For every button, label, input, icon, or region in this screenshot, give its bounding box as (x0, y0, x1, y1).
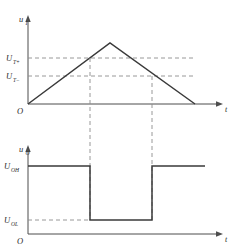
top-plot-x-axis-arrow (216, 101, 223, 106)
waveform-figure: u I t O U T+ U T− (0, 0, 234, 250)
level-low-label: U (4, 215, 11, 225)
crossing-markers-group (90, 58, 152, 220)
threshold-low-label: U (6, 71, 13, 81)
bottom-plot-y-axis-label: u (19, 144, 23, 154)
top-plot-y-axis-label: u (19, 14, 23, 24)
input-triangle-waveform (28, 43, 195, 104)
bottom-plot-x-axis-label: t (225, 235, 228, 244)
bottom-plot-x-axis-arrow (216, 231, 223, 236)
top-plot-origin-label: O (17, 106, 23, 116)
threshold-low-label-subscript: T− (13, 77, 20, 83)
threshold-high-label-subscript: T+ (13, 59, 20, 65)
top-plot-group: u I t O U T+ U T− (6, 14, 228, 116)
bottom-plot-group: u O t O U OH U OL (4, 144, 228, 246)
output-square-waveform (28, 166, 205, 220)
level-high-label-subscript: OH (11, 167, 20, 173)
bottom-plot-origin-label: O (17, 236, 23, 246)
level-high-label: U (4, 161, 11, 171)
threshold-high-label: U (6, 53, 13, 63)
timing-diagram-svg: u I t O U T+ U T− (0, 0, 234, 250)
bottom-plot-y-axis-label-subscript: O (26, 150, 30, 156)
level-low-label-subscript: OL (11, 221, 18, 227)
top-plot-x-axis-label: t (225, 105, 228, 114)
